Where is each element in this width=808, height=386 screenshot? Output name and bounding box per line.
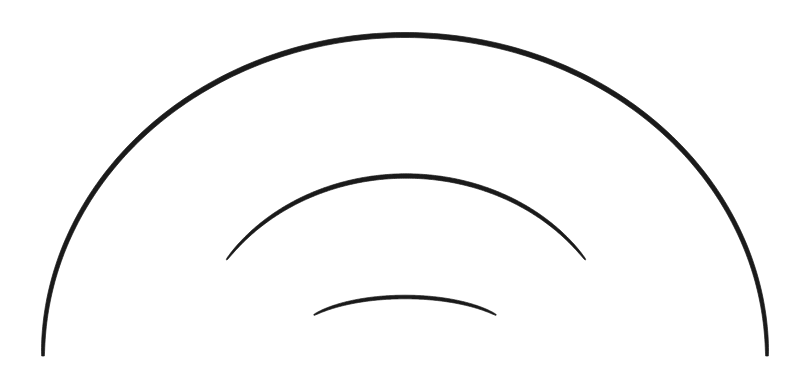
canvas-background — [0, 0, 808, 386]
arcs-illustration: Concentric Arcs Three nested tapered arc… — [0, 0, 808, 386]
drawing-canvas: Concentric Arcs Three nested tapered arc… — [0, 0, 808, 386]
